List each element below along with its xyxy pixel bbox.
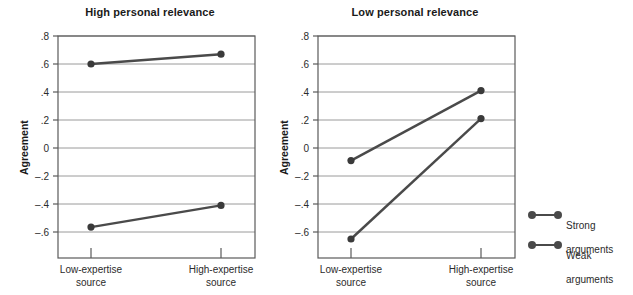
legend-item-weak-arguments[interactable]: Weak arguments [528,238,613,286]
series-strong-arguments-right [347,87,484,164]
chart-legend: Strong arguments Weak arguments [528,208,628,270]
data-point [87,224,94,231]
legend-label-strong-line1: Strong [566,220,595,231]
x-tick-label-low-2: source [336,277,366,288]
data-point [217,51,224,58]
x-tick-label-high: High-expertise [189,264,254,275]
y-tick-label: .4 [41,87,50,98]
y-tick-label: .4 [301,87,310,98]
y-tick-label: 0 [303,143,309,154]
data-point [217,202,224,209]
series-weak-arguments-left [87,202,224,231]
y-tick-label: –.6 [35,227,49,238]
y-tick-label: –.2 [295,171,309,182]
legend-marker-strong-icon [528,209,562,221]
y-tick-label: –.6 [295,227,309,238]
y-tick-label: .2 [301,115,310,126]
plot-frame-right [318,36,515,258]
series-strong-arguments-left [87,51,224,68]
y-tick-label: .6 [41,59,50,70]
y-tick-label: 0 [43,143,49,154]
x-tick-label-low-2: source [76,277,106,288]
gridlines-left [58,36,255,232]
data-point [477,87,484,94]
panel-high-personal-relevance: High personal relevance Agreement [0,0,300,295]
x-tickmarks-left [91,248,221,258]
series-weak-arguments-right [347,115,484,243]
data-point [477,115,484,122]
x-tick-label-high-2: source [466,277,496,288]
plot-area-right: .8 .6 .4 .2 0 –.2 –.4 –.6 Low-expertise … [260,0,560,295]
legend-label-weak-line1: Weak [566,250,591,261]
y-tick-label: –.4 [295,199,309,210]
panel-low-personal-relevance: Low personal relevance Agreement [260,0,560,295]
y-tick-label: .8 [41,31,50,42]
figure-two-panel-line-charts: High personal relevance Agreement [0,0,633,295]
data-point [347,157,354,164]
legend-label-weak-line2: arguments [566,274,613,285]
plot-frame-left [58,36,255,258]
plot-area-left: .8 .6 .4 .2 0 –.2 –.4 –.6 Low-expertise … [0,0,300,295]
data-point [87,60,94,67]
x-tick-label-low: Low-expertise [60,264,123,275]
y-tickmarks-right [313,36,318,232]
y-tickmarks-left [53,36,58,232]
y-tick-label: .8 [301,31,310,42]
x-tick-label-high-2: source [206,277,236,288]
y-tick-label: –.4 [35,199,49,210]
x-tick-label-low: Low-expertise [320,264,383,275]
y-tick-label: .6 [301,59,310,70]
legend-marker-weak-icon [528,239,562,251]
gridlines-right [318,36,515,232]
data-point [347,235,354,242]
legend-label-weak: Weak arguments [566,238,613,286]
y-tick-label: .2 [41,115,50,126]
x-tick-label-high: High-expertise [449,264,514,275]
y-tick-label: –.2 [35,171,49,182]
x-tickmarks-right [351,248,481,258]
